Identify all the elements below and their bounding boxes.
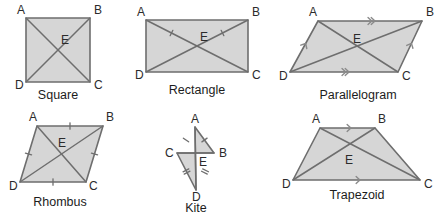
square-vertex-label-A: A: [17, 3, 25, 17]
rectangle-vertex-label-A: A: [137, 5, 145, 19]
tick-mark: [202, 171, 208, 174]
parallelogram-caption: Parallelogram: [319, 88, 396, 102]
rectangle-vertex-label-C: C: [252, 68, 261, 82]
parallelogram-vertex-label-D: D: [279, 69, 288, 83]
shapes-layer: ABCDESquareABCDERectangleABCDEParallelog…: [9, 3, 434, 215]
rectangle-vertex-label-B: B: [252, 5, 260, 19]
rhombus-vertex-label-B: B: [106, 110, 114, 124]
shape-rectangle: ABCDERectangle: [135, 5, 261, 97]
kite-sidemark-C-A: [183, 138, 188, 142]
rhombus-vertex-label-C: C: [89, 179, 98, 193]
shape-square: ABCDESquare: [15, 3, 103, 102]
trapezoid-center-label: E: [345, 153, 353, 167]
rectangle-vertex-label-D: D: [135, 68, 144, 82]
square-vertex-label-B: B: [94, 3, 102, 17]
kite-vertex-label-C: C: [165, 146, 174, 160]
kite-vertex-label-B: B: [219, 146, 227, 160]
kite-caption: Kite: [185, 201, 207, 215]
kite-sidemark-B-D: [202, 169, 209, 174]
shape-rhombus: ABCDERhombus: [9, 110, 114, 209]
square-vertex-label-D: D: [15, 78, 24, 92]
trapezoid-outline: [293, 128, 420, 180]
square-caption: Square: [38, 88, 78, 102]
rhombus-caption: Rhombus: [33, 195, 87, 209]
rectangle-caption: Rectangle: [169, 83, 225, 97]
square-center-label: E: [61, 33, 69, 47]
quadrilaterals-svg: ABCDESquareABCDERectangleABCDEParallelog…: [0, 0, 439, 217]
shape-parallelogram: ABCDEParallelogram: [279, 5, 434, 102]
trapezoid-vertex-label-A: A: [312, 112, 320, 126]
quadrilaterals-figure: ABCDESquareABCDERectangleABCDEParallelog…: [0, 0, 439, 217]
square-vertex-label-C: C: [94, 78, 103, 92]
rhombus-vertex-label-A: A: [29, 110, 37, 124]
trapezoid-vertex-label-D: D: [282, 177, 291, 191]
kite-diagonal-AD: [195, 127, 196, 190]
parallelogram-vertex-label-B: B: [426, 5, 434, 19]
parallelogram-center-label: E: [353, 32, 361, 46]
tick-mark: [203, 169, 209, 172]
kite-vertex-label-A: A: [191, 112, 199, 126]
shape-trapezoid: ABCDETrapezoid: [282, 112, 433, 202]
trapezoid-vertex-label-C: C: [424, 177, 433, 191]
trapezoid-caption: Trapezoid: [329, 188, 384, 202]
rhombus-center-label: E: [58, 136, 66, 150]
tick-mark: [183, 138, 188, 142]
rectangle-center-label: E: [200, 30, 208, 44]
kite-center-label: E: [199, 155, 207, 169]
parallelogram-vertex-label-A: A: [309, 5, 317, 19]
trapezoid-vertex-label-B: B: [378, 112, 386, 126]
shape-kite: ABCDEKite: [165, 112, 227, 215]
parallelogram-vertex-label-C: C: [402, 69, 411, 83]
rhombus-vertex-label-D: D: [9, 179, 18, 193]
